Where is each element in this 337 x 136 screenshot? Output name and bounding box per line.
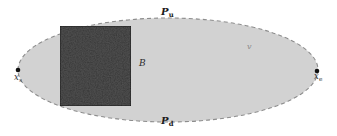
lower-boundary-symbol: P <box>161 115 169 126</box>
figure-canvas: Pu Pd xs xe B v <box>0 0 337 136</box>
upper-boundary-subscript: u <box>169 11 174 19</box>
lower-boundary-subscript: d <box>169 120 174 128</box>
velocity-label: v <box>247 43 252 51</box>
lower-boundary-label: Pd <box>161 116 174 128</box>
block-label: B <box>139 59 146 68</box>
upper-boundary-symbol: P <box>161 6 169 17</box>
end-point-label: xe <box>314 72 322 82</box>
start-point-subscript: s <box>19 77 22 83</box>
end-point-subscript: e <box>319 76 323 82</box>
start-point-label: xs <box>14 73 22 83</box>
textured-block <box>60 26 131 106</box>
upper-boundary-label: Pu <box>161 7 174 19</box>
